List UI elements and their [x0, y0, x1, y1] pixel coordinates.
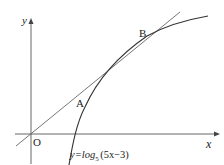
- x-axis-arrow-icon: [214, 132, 220, 137]
- curve-equation-label: y=log5(5x−3): [69, 149, 129, 163]
- x-axis-label: x: [205, 137, 212, 151]
- y-axis-label: y: [21, 14, 27, 26]
- y-axis-arrow-icon: [29, 18, 34, 24]
- graph-diagram: y x O A B y=log5(5x−3): [0, 0, 224, 165]
- origin-label: O: [33, 136, 41, 148]
- point-B-label: B: [139, 27, 146, 39]
- point-A-label: A: [76, 97, 84, 109]
